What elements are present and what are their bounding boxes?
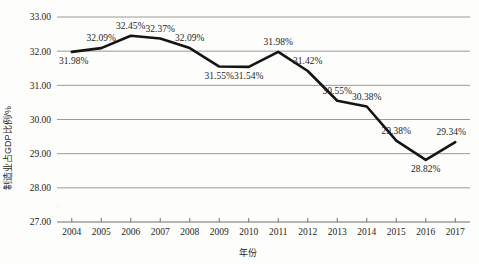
- x-axis-tick-label: 2015: [387, 227, 406, 237]
- y-axis-tick-label: 30.00: [30, 115, 52, 125]
- gridlines: [57, 17, 470, 222]
- data-point-label: 29.34%: [437, 127, 466, 137]
- x-axis-tick-label: 2017: [446, 227, 465, 237]
- x-axis-tick-labels: 2004200520062007200820092010201120122013…: [62, 227, 465, 237]
- y-axis-tick-labels: 33.0032.0031.0030.0029.0028.0027.00: [30, 12, 52, 227]
- x-axis-tick-label: 2010: [239, 227, 258, 237]
- y-axis-title: 制造业占GDP比例/%: [2, 106, 13, 190]
- data-point-label: 32.45%: [116, 21, 145, 31]
- data-point-label: 31.98%: [59, 56, 88, 66]
- data-point-label: 31.42%: [293, 56, 322, 66]
- data-series-line: [72, 36, 456, 160]
- y-axis-tick-label: 33.00: [30, 12, 52, 22]
- line-chart-canvas: 33.0032.0031.0030.0029.0028.0027.00 2004…: [0, 0, 479, 264]
- y-axis-tick-label: 28.00: [30, 183, 52, 193]
- x-axis-tick-label: 2011: [269, 227, 288, 237]
- data-point-label: 28.82%: [411, 164, 440, 174]
- data-point-label: 30.38%: [352, 92, 381, 102]
- x-axis-tick-label: 2005: [92, 227, 111, 237]
- y-axis-tick-label: 29.00: [30, 149, 52, 159]
- data-point-label: 31.55%: [205, 71, 234, 81]
- x-axis-tick-label: 2016: [416, 227, 435, 237]
- data-point-label: 32.37%: [146, 24, 175, 34]
- data-point-labels: 31.98%32.09%32.45%32.37%32.09%31.55%31.5…: [59, 21, 466, 174]
- x-axis-tick-label: 2007: [151, 227, 170, 237]
- x-axis-tick-label: 2004: [62, 227, 81, 237]
- x-axis-title: 年份: [239, 247, 257, 258]
- y-axis-tick-label: 27.00: [30, 217, 52, 227]
- data-point-label: 32.09%: [175, 33, 204, 43]
- x-axis-tick-label: 2009: [210, 227, 229, 237]
- x-axis-tick-label: 2006: [121, 227, 140, 237]
- x-axis: [72, 218, 456, 222]
- data-point-label: 29.38%: [382, 126, 411, 136]
- x-axis-tick-label: 2008: [180, 227, 199, 237]
- y-axis-tick-label: 32.00: [30, 47, 52, 57]
- x-axis-tick-label: 2014: [357, 227, 376, 237]
- data-point-label: 32.09%: [87, 33, 116, 43]
- y-axis-tick-label: 31.00: [30, 81, 52, 91]
- data-point-label: 31.98%: [264, 37, 293, 47]
- data-point-label: 30.55%: [323, 86, 352, 96]
- x-axis-tick-label: 2013: [328, 227, 347, 237]
- x-axis-tick-label: 2012: [298, 227, 317, 237]
- chart-figure: 33.0032.0031.0030.0029.0028.0027.00 2004…: [0, 0, 479, 264]
- data-point-label: 31.54%: [234, 71, 263, 81]
